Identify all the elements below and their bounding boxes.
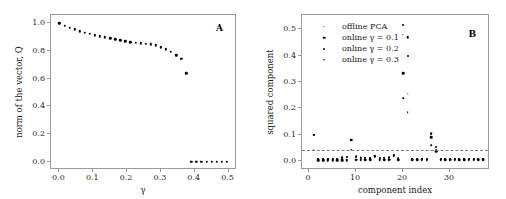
panel-a-data-point	[210, 160, 212, 162]
panel-a-data-point	[144, 42, 146, 44]
panel-a-yaxis-tick-label: 0.2	[32, 129, 45, 138]
panel-a-data-point	[134, 42, 136, 44]
panel-a-xaxis-tick-label: 0.5	[221, 173, 234, 182]
panel-b-data-point	[406, 36, 409, 39]
panel-b-xaxis-tick	[308, 169, 309, 172]
panel-b-data-point	[454, 158, 456, 160]
panel-a-yaxis-tick	[47, 50, 50, 51]
panel-b-data-point	[407, 55, 409, 57]
panel-a-plot-area	[51, 15, 235, 168]
panel-b-data-point	[426, 158, 428, 160]
panel-a-xaxis-tick	[126, 169, 127, 172]
panel-b-yaxis-tick	[298, 55, 301, 56]
panel-a-yaxis-tick-label: 0.0	[32, 156, 45, 165]
panel-b-data-point	[360, 156, 362, 158]
panel-b: offline PCAonline γ = 0.1online γ = 0.2o…	[253, 0, 506, 199]
panel-b-data-point	[332, 158, 334, 160]
panel-b-xaxis-tick-label: 0	[306, 173, 311, 182]
panel-b-data-point	[445, 158, 447, 160]
panel-b-data-point	[463, 158, 465, 160]
panel-b-data-point	[430, 136, 433, 139]
panel-b-reference-line	[302, 150, 488, 151]
panel-a-data-point	[68, 27, 70, 29]
panel-b-data-point	[355, 158, 358, 161]
panel-a-yaxis-tick	[47, 133, 50, 134]
panel-a-yaxis-tick	[47, 22, 50, 23]
panel-a-xaxis-tick-label: 0.0	[52, 173, 65, 182]
panel-a-data-point	[165, 48, 167, 50]
figure-root: A 0.00.10.20.30.40.50.00.20.40.60.81.0 γ…	[0, 0, 506, 199]
panel-b-data-point	[398, 157, 400, 159]
panel-b-data-point	[379, 157, 381, 159]
panel-a-data-point	[155, 44, 157, 46]
panel-b-data-point	[468, 158, 470, 160]
panel-a-plot-frame: A	[50, 14, 236, 169]
panel-a-yaxis-tick	[47, 78, 50, 79]
panel-b-xaxis-tick	[449, 169, 450, 172]
panel-b-data-point	[402, 97, 404, 99]
panel-b-yaxis-tick-label: 0.0	[283, 155, 296, 164]
legend-marker-icon	[323, 36, 326, 39]
panel-b-yaxis-tick-label: 0.2	[283, 103, 296, 112]
panel-b-data-point	[430, 133, 432, 135]
legend-entry-label: offline PCA	[342, 21, 387, 32]
panel-b-yaxis-tick-label: 0.1	[283, 129, 296, 138]
panel-b-data-point	[369, 157, 371, 159]
panel-a-data-point	[89, 33, 91, 35]
panel-a-yaxis-tick-label: 0.6	[32, 73, 45, 82]
panel-b-data-point	[402, 34, 403, 35]
panel-a-data-point	[58, 22, 60, 24]
panel-b-data-point	[440, 158, 442, 160]
panel-a-data-point	[109, 37, 111, 39]
panel-a-data-point	[205, 160, 207, 162]
panel-b-data-point	[388, 156, 390, 158]
panel-a-data-point	[180, 58, 182, 60]
panel-a-xaxis-tick	[160, 169, 161, 172]
panel-a-xaxis-tick-label: 0.1	[86, 173, 99, 182]
panel-a-data-point	[63, 24, 65, 26]
panel-b-data-point	[313, 134, 315, 136]
legend-entry-label: online γ = 0.2	[342, 43, 399, 54]
panel-b-data-point	[416, 158, 418, 160]
panel-a-data-point	[79, 30, 81, 32]
panel-a-data-point	[94, 34, 96, 36]
panel-a-data-point	[200, 160, 202, 162]
panel-b-plot-frame: offline PCAonline γ = 0.1online γ = 0.2o…	[301, 14, 489, 169]
panel-b-data-point	[435, 146, 437, 148]
panel-b-xaxis-tick-label: 20	[397, 173, 407, 182]
panel-b-yaxis-tick-label: 0.5	[283, 24, 296, 33]
panel-b-data-point	[407, 93, 408, 94]
panel-a-data-point	[129, 41, 131, 43]
panel-a-yaxis-label: norm of the vector, Q	[14, 46, 24, 138]
panel-b-yaxis-tick	[298, 107, 301, 108]
panel-a-xaxis-tick-label: 0.4	[187, 173, 200, 182]
panel-a-data-point	[185, 72, 187, 74]
panel-b-data-point	[374, 156, 376, 158]
panel-b-data-point	[402, 24, 404, 26]
panel-a-xaxis-label: γ	[140, 185, 145, 195]
panel-b-data-point	[346, 156, 348, 158]
panel-a-data-point	[195, 160, 197, 162]
panel-a-yaxis-tick-label: 0.8	[32, 45, 45, 54]
panel-b-data-point	[473, 158, 475, 160]
panel-a-yaxis-tick	[47, 161, 50, 162]
panel-b-data-point	[459, 158, 461, 160]
panel-a-data-point	[150, 43, 152, 45]
legend-marker-icon	[323, 48, 325, 50]
panel-b-data-point	[365, 157, 367, 159]
panel-b-yaxis-tick	[298, 160, 301, 161]
panel-b-yaxis-tick-label: 0.3	[283, 76, 296, 85]
panel-a-data-point	[99, 35, 101, 37]
panel-a-yaxis-tick-label: 0.4	[32, 101, 45, 110]
panel-b-data-point	[477, 158, 479, 160]
panel-a-data-point	[73, 28, 75, 30]
panel-b-yaxis-tick	[298, 134, 301, 135]
panel-b-data-point	[482, 158, 484, 160]
panel-b-data-point	[393, 155, 395, 157]
panel-b-yaxis-tick	[298, 81, 301, 82]
panel-b-data-point	[345, 159, 348, 162]
panel-b-data-point	[355, 155, 357, 157]
panel-a-data-point	[190, 160, 192, 162]
panel-a-data-point	[226, 160, 228, 162]
panel-a-xaxis-tick	[228, 169, 229, 172]
